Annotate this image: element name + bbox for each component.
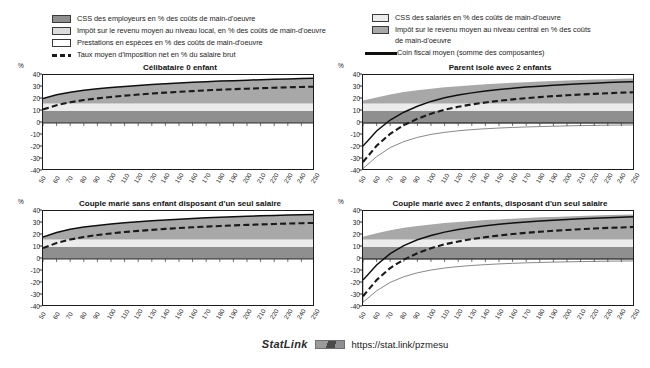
statlink-footer: StatLink https://stat.link/pzmesu: [0, 338, 650, 350]
color-swatch-white: [52, 39, 71, 47]
x-axis-tick-label: 220: [268, 308, 280, 321]
area-series: [43, 239, 314, 246]
color-swatch-medium-gray: [372, 26, 389, 34]
legend-item: CSS des salariés en % des coûts de main-…: [372, 13, 648, 24]
x-axis-tick-label: 70: [384, 175, 394, 185]
x-axis-tick-label: 190: [228, 172, 240, 185]
x-axis-tick-label: 150: [493, 172, 505, 185]
x-axis-tick-label: 250: [629, 172, 641, 185]
legend-item-label: Taux moyen d'imposition net en % du sala…: [77, 50, 235, 61]
plot-area: [362, 74, 634, 170]
x-axis-tick-label: 200: [561, 172, 573, 185]
x-axis-tick-label: 160: [507, 308, 519, 321]
legend-item: Coin fiscal moyen (somme des composantes…: [372, 48, 648, 59]
y-axis-tick-label: 0: [18, 119, 40, 126]
plot-area: [42, 210, 314, 306]
y-axis-tick-label: -30: [18, 291, 40, 298]
x-axis-tick-label: 240: [296, 308, 308, 321]
y-axis-tick-label: -10: [18, 267, 40, 274]
legend-left: CSS des employeurs en % des coûts de mai…: [52, 14, 342, 62]
x-axis-tick-label: 120: [452, 172, 464, 185]
chart-panel-couple-2-enfants: %Couple marié avec 2 enfants, disposant …: [338, 200, 638, 332]
y-axis-tick-label: -10: [18, 131, 40, 138]
y-axis-tick-label: 10: [338, 243, 360, 250]
plot-area: [42, 74, 314, 170]
x-axis: 5060708090100110120130140150160170180190…: [42, 307, 314, 329]
y-axis-tick-label: 40: [338, 71, 360, 78]
x-axis-tick-label: 130: [466, 172, 478, 185]
x-axis-tick-label: 110: [119, 172, 130, 184]
y-axis-unit-label: %: [18, 62, 24, 69]
x-axis-tick-label: 60: [371, 175, 381, 185]
color-swatch-dark-gray: [52, 15, 71, 23]
x-axis-tick-label: 70: [64, 311, 74, 321]
x-axis-tick-label: 60: [371, 311, 381, 321]
x-axis-tick-label: 210: [255, 308, 267, 321]
x-axis-tick-label: 150: [493, 308, 505, 321]
x-axis-tick-label: 140: [480, 172, 492, 185]
x-axis-tick-label: 80: [398, 311, 408, 321]
y-axis-tick-label: -40: [18, 303, 40, 310]
legend-item: Taux moyen d'imposition net en % du sala…: [52, 50, 342, 61]
area-series: [363, 78, 634, 103]
x-axis-tick-label: 60: [51, 311, 61, 321]
x-axis: 5060708090100110120130140150160170180190…: [362, 171, 634, 193]
x-axis-tick-label: 190: [548, 172, 560, 185]
y-axis-tick-label: -10: [338, 267, 360, 274]
y-axis-tick-label: -30: [338, 155, 360, 162]
x-axis-tick-label: 170: [200, 172, 212, 185]
y-axis-tick-label: 30: [338, 83, 360, 90]
legend-item: Prestations en espèces en % des coûts de…: [52, 38, 342, 49]
x-axis-tick-label: 80: [398, 175, 408, 185]
x-axis-tick-label: 110: [439, 308, 450, 320]
x-axis-tick-label: 140: [160, 308, 172, 321]
x-axis-tick-label: 160: [507, 172, 519, 185]
x-axis-tick-label: 180: [214, 172, 226, 185]
y-axis-tick-label: -40: [338, 167, 360, 174]
statlink-url[interactable]: https://stat.link/pzmesu: [352, 339, 449, 350]
panel-title: Couple marié avec 2 enfants, disposant d…: [362, 199, 638, 208]
y-axis-tick-label: 30: [338, 219, 360, 226]
y-axis-tick-label: -40: [18, 167, 40, 174]
y-axis-tick-label: 30: [18, 219, 40, 226]
series-layer: [43, 75, 314, 170]
series-layer: [363, 75, 634, 170]
x-axis-tick-label: 180: [534, 308, 546, 321]
x-axis-tick-label: 250: [309, 308, 321, 321]
y-axis-tick-label: -10: [338, 131, 360, 138]
x-axis-tick-label: 160: [187, 172, 199, 185]
x-axis-tick-label: 90: [412, 175, 422, 185]
y-axis-tick-label: 0: [338, 119, 360, 126]
x-axis-tick-label: 200: [241, 308, 253, 321]
x-axis-tick-label: 130: [146, 172, 158, 185]
x-axis-tick-label: 170: [520, 308, 532, 321]
legend-item: Impôt sur le revenu moyen au niveau loca…: [52, 26, 342, 37]
x-axis-tick-label: 210: [255, 172, 267, 185]
area-series: [43, 111, 314, 123]
y-axis-tick-label: 20: [18, 231, 40, 238]
legend-item-label: Impôt sur le revenu moyen au niveau cent…: [395, 25, 591, 46]
x-axis-tick-label: 150: [173, 172, 185, 185]
panel-title: Couple marié sans enfant disposant d'un …: [42, 199, 318, 208]
x-axis-tick-label: 170: [520, 172, 532, 185]
panel-title: Célibataire 0 enfant: [42, 63, 318, 72]
legend-item-label: Coin fiscal moyen (somme des composantes…: [397, 48, 544, 59]
x-axis-tick-label: 50: [357, 175, 367, 185]
legend-item-label: CSS des salariés en % des coûts de main-…: [395, 13, 561, 24]
x-axis-tick-label: 210: [575, 172, 587, 185]
x-axis-tick-label: 70: [64, 175, 74, 185]
y-axis-unit-label: %: [338, 198, 344, 205]
x-axis-tick-label: 220: [588, 308, 600, 321]
y-axis-tick-label: 20: [338, 231, 360, 238]
area-series-negative: [363, 259, 634, 302]
x-axis-tick-label: 100: [425, 308, 437, 321]
x-axis-tick-label: 140: [160, 172, 172, 185]
solid-line-swatch: [372, 49, 391, 57]
y-axis-tick-label: -30: [18, 155, 40, 162]
x-axis-tick-label: 80: [78, 311, 88, 321]
y-axis-tick-label: 20: [18, 95, 40, 102]
series-layer: [43, 211, 314, 306]
x-axis-tick-label: 120: [132, 172, 144, 185]
color-swatch-light-gray: [52, 27, 71, 35]
x-axis-tick-label: 100: [105, 308, 117, 321]
